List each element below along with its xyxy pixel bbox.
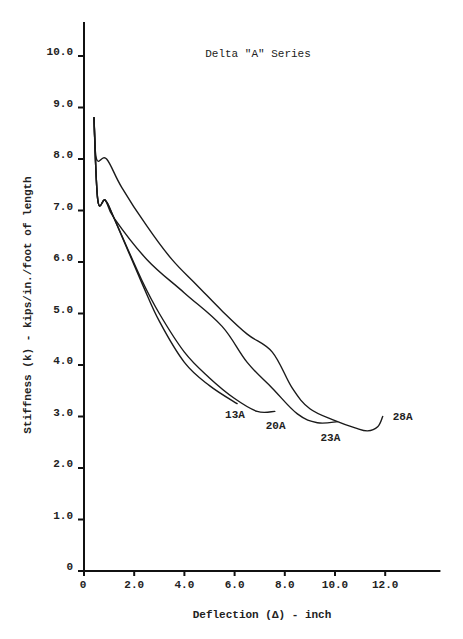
series-label-28a: 28A <box>393 411 413 423</box>
y-tick-label: 0 <box>66 561 73 573</box>
axes: 01.02.03.04.05.06.07.08.09.010.002.04.06… <box>47 22 441 591</box>
y-tick-label: 5.0 <box>53 304 73 316</box>
y-tick-label: 3.0 <box>53 407 73 419</box>
y-tick-label: 7.0 <box>53 201 73 213</box>
series-line-13a <box>94 118 237 404</box>
series-label-23a: 23A <box>321 432 341 444</box>
x-tick-label: 12.0 <box>372 579 398 591</box>
y-axis-title: Stiffness (k) - kips/in./foot of length <box>22 176 34 433</box>
x-tick-label: 10.0 <box>322 579 348 591</box>
y-tick-label: 4.0 <box>53 355 73 367</box>
y-tick-label: 10.0 <box>47 46 73 58</box>
x-tick-label: 2.0 <box>124 579 144 591</box>
series-line-23a <box>94 118 338 423</box>
series-label-13a: 13A <box>225 409 245 421</box>
stiffness-deflection-chart: Delta "A" Series Stiffness (k) - kips/in… <box>0 0 463 639</box>
x-tick-label: 6.0 <box>225 579 245 591</box>
series-curves: 13A20A23A28A <box>94 118 413 444</box>
series-line-20a <box>94 118 275 413</box>
series-line-28a <box>94 118 383 431</box>
x-tick-label: 4.0 <box>174 579 194 591</box>
x-axis-title: Deflection (Δ) - inch <box>193 609 332 621</box>
y-tick-label: 9.0 <box>53 98 73 110</box>
y-tick-label: 8.0 <box>53 149 73 161</box>
x-tick-label: 8.0 <box>275 579 295 591</box>
series-label-20a: 20A <box>266 420 286 432</box>
chart-title: Delta "A" Series <box>205 48 311 60</box>
y-tick-label: 6.0 <box>53 252 73 264</box>
x-tick-label: 0 <box>80 579 87 591</box>
y-tick-label: 1.0 <box>53 510 73 522</box>
y-tick-label: 2.0 <box>53 458 73 470</box>
